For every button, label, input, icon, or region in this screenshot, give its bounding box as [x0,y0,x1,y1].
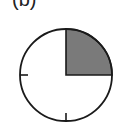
quarter-circle-diagram [0,0,119,140]
